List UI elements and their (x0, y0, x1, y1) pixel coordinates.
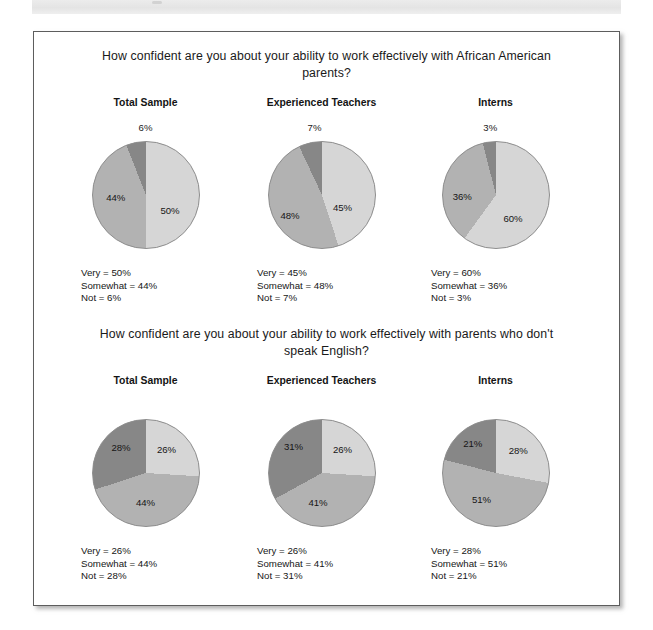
chart-2-column-experienced-teachers: Experienced Teachers 26% 41% 31% Very = … (234, 374, 409, 583)
pie-legend: Very = 26% Somewhat = 44% Not = 28% (58, 545, 233, 583)
pie-chart-1-interns: 3% 60% 36% (408, 123, 583, 263)
slice-label-not: 6% (139, 122, 153, 133)
column-header: Experienced Teachers (234, 96, 409, 123)
legend-line-not: Not = 3% (431, 292, 583, 305)
pie-chart-2-total-sample: 26% 44% 28% (58, 401, 233, 541)
legend-line-somewhat: Somewhat = 48% (257, 280, 409, 293)
chart-block-1: How confident are you about your ability… (34, 48, 619, 336)
pie-chart-1-total-sample: 6% 50% 44% (58, 123, 233, 263)
slice-label-somewhat: 51% (472, 494, 491, 505)
scan-edge-band (32, 0, 621, 14)
chart-2-column-total-sample: Total Sample 26% 44% 28% Very = 26% Some… (58, 374, 233, 583)
chart-1-column-interns: Interns 3% 60% 36% Very = 60% Somewhat =… (408, 96, 583, 305)
column-header: Experienced Teachers (234, 374, 409, 401)
slice-label-very: 26% (333, 443, 352, 454)
slice-label-somewhat: 44% (136, 496, 155, 507)
chart-2-columns: Total Sample 26% 44% 28% Very = 26% Some… (34, 374, 619, 614)
slice-label-somewhat: 41% (308, 496, 327, 507)
column-header: Interns (408, 96, 583, 123)
pie-legend: Very = 60% Somewhat = 36% Not = 3% (408, 267, 583, 305)
column-header: Total Sample (58, 96, 233, 123)
slice-label-somewhat: 36% (453, 190, 472, 201)
chart-1-title: How confident are you about your ability… (34, 48, 619, 82)
legend-line-somewhat: Somewhat = 51% (431, 558, 583, 571)
chart-block-2: How confident are you about your ability… (34, 326, 619, 614)
legend-line-not: Not = 6% (81, 292, 233, 305)
legend-line-very: Very = 26% (257, 545, 409, 558)
pie-chart-2-interns: 28% 51% 21% (408, 401, 583, 541)
legend-line-very: Very = 26% (81, 545, 233, 558)
legend-line-very: Very = 50% (81, 267, 233, 280)
slice-label-not: 7% (308, 122, 322, 133)
pie-chart-1-experienced-teachers: 7% 45% 48% (234, 123, 409, 263)
chart-1-column-total-sample: Total Sample 6% 50% 44% Very = 50% Somew… (58, 96, 233, 305)
legend-line-not: Not = 21% (431, 570, 583, 583)
slice-label-very: 28% (509, 445, 528, 456)
pie-graphic (442, 419, 550, 527)
legend-line-not: Not = 31% (257, 570, 409, 583)
pie-legend: Very = 26% Somewhat = 41% Not = 31% (234, 545, 409, 583)
legend-line-very: Very = 45% (257, 267, 409, 280)
chart-1-columns: Total Sample 6% 50% 44% Very = 50% Somew… (34, 96, 619, 336)
chart-1-column-experienced-teachers: Experienced Teachers 7% 45% 48% Very = 4… (234, 96, 409, 305)
legend-line-somewhat: Somewhat = 44% (81, 558, 233, 571)
pie-legend: Very = 50% Somewhat = 44% Not = 6% (58, 267, 233, 305)
slice-label-very: 50% (160, 204, 179, 215)
legend-line-not: Not = 7% (257, 292, 409, 305)
chart-2-column-interns: Interns 28% 51% 21% Very = 28% Somewhat … (408, 374, 583, 583)
slice-label-not: 3% (483, 122, 497, 133)
legend-line-very: Very = 60% (431, 267, 583, 280)
slice-label-not: 31% (284, 440, 303, 451)
slice-label-not: 21% (463, 438, 482, 449)
column-header: Total Sample (58, 374, 233, 401)
pie-graphic (268, 419, 376, 527)
column-header: Interns (408, 374, 583, 401)
pie-graphic (268, 141, 376, 249)
slice-label-somewhat: 48% (280, 210, 299, 221)
slice-label-not: 28% (111, 442, 130, 453)
chart-2-title: How confident are you about your ability… (34, 326, 619, 360)
slice-label-very: 45% (333, 202, 352, 213)
slice-label-somewhat: 44% (106, 192, 125, 203)
pie-legend: Very = 28% Somewhat = 51% Not = 21% (408, 545, 583, 583)
page-sheet: How confident are you about your ability… (33, 31, 620, 606)
pie-legend: Very = 45% Somewhat = 48% Not = 7% (234, 267, 409, 305)
pie-chart-2-experienced-teachers: 26% 41% 31% (234, 401, 409, 541)
slice-label-very: 60% (503, 213, 522, 224)
legend-line-somewhat: Somewhat = 44% (81, 280, 233, 293)
legend-line-not: Not = 28% (81, 570, 233, 583)
pie-graphic (92, 419, 200, 527)
slice-label-very: 26% (157, 443, 176, 454)
legend-line-somewhat: Somewhat = 41% (257, 558, 409, 571)
legend-line-somewhat: Somewhat = 36% (431, 280, 583, 293)
legend-line-very: Very = 28% (431, 545, 583, 558)
